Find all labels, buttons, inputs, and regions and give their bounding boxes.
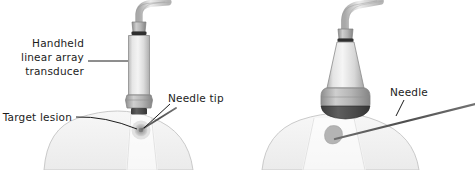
- strain-relief-right: [338, 29, 353, 39]
- transducer-neck-right: [321, 88, 370, 108]
- ultrasound-guidance-figure: Handheld linear array transducer Needle …: [0, 0, 475, 170]
- label-linear-array: linear array: [21, 51, 84, 63]
- collar-band-right: [338, 39, 354, 43]
- transducer-body-left: [129, 36, 150, 96]
- strain-relief-left: [132, 22, 146, 32]
- transducer-neck-left: [126, 95, 153, 108]
- label-transducer: transducer: [25, 65, 84, 77]
- transducer-footprint-left: [131, 108, 147, 115]
- label-target-lesion: Target lesion: [2, 111, 72, 123]
- target-lesion-right: [325, 126, 343, 144]
- label-needle: Needle: [390, 86, 428, 98]
- label-needle-tip: Needle tip: [168, 92, 224, 104]
- collar-band-left: [132, 32, 147, 35]
- label-handheld: Handheld: [32, 37, 84, 49]
